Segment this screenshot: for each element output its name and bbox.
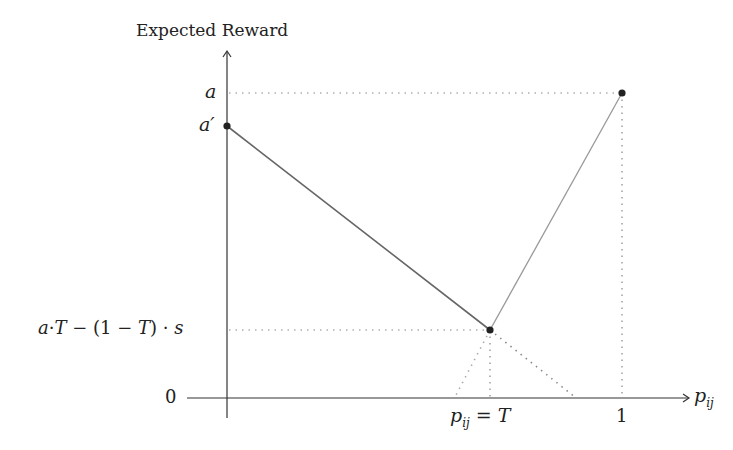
tick-T-p: p: [450, 404, 462, 426]
tick-T-T: T: [498, 404, 511, 426]
extension-left-segment: [490, 330, 575, 397]
point-aprime: [223, 122, 230, 129]
tick-min-s: s: [174, 317, 183, 338]
tick-label-a: a: [205, 80, 216, 102]
x-axis-label: pij: [694, 384, 714, 410]
tick-min-minus: − (1 −: [66, 317, 138, 338]
tick-label-aprime: a′: [199, 113, 215, 135]
tick-T-eq: =: [470, 404, 498, 426]
point-min: [486, 326, 493, 333]
tick-min-a: a: [38, 317, 49, 338]
x-axis-label-p: p: [694, 384, 706, 406]
tick-min-T2: T: [138, 317, 150, 338]
tick-min-T: T: [54, 317, 66, 338]
tick-label-T: pij = T: [450, 404, 510, 430]
tick-label-one: 1: [616, 405, 627, 426]
segment-left: [227, 126, 490, 330]
x-axis-label-sub: ij: [706, 396, 714, 410]
tick-T-sub: ij: [462, 416, 470, 430]
segment-right: [490, 93, 622, 330]
tick-label-zero: 0: [165, 386, 176, 407]
point-a: [618, 89, 625, 96]
reward-plot: [0, 0, 733, 450]
tick-min-rest: ) ·: [150, 317, 174, 338]
tick-label-min: a·T − (1 − T) · s: [38, 317, 183, 338]
extension-right-segment: [455, 330, 490, 397]
y-axis-label: Expected Reward: [136, 20, 288, 40]
